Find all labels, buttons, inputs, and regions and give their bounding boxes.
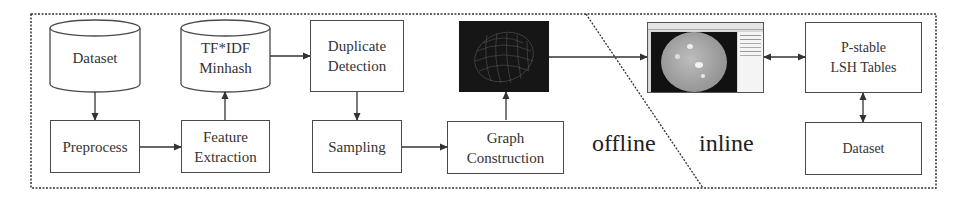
tfidf-label-line1: TF*IDF bbox=[201, 38, 250, 58]
dataset-source-node: Dataset bbox=[50, 38, 140, 78]
offline-section-label: offline bbox=[592, 130, 656, 157]
duplicate-detection-node: Duplicate Detection bbox=[310, 20, 404, 92]
sampling-label: Sampling bbox=[328, 137, 386, 157]
dataset-source-label: Dataset bbox=[73, 48, 118, 68]
graph-construction-node: Graph Construction bbox=[447, 121, 564, 174]
dataset-inline-label: Dataset bbox=[843, 139, 885, 159]
pstable-label-line2: LSH Tables bbox=[830, 58, 896, 78]
graph-construction-label-line2: Construction bbox=[467, 148, 545, 168]
duplicate-detection-label-line1: Duplicate bbox=[328, 36, 386, 56]
app-titlebar bbox=[648, 23, 764, 30]
feature-extraction-label-line2: Extraction bbox=[194, 147, 256, 167]
preprocess-label: Preprocess bbox=[63, 137, 128, 157]
pstable-label-line1: P-stable bbox=[841, 38, 886, 58]
tfidf-minhash-node: TF*IDF Minhash bbox=[181, 36, 270, 80]
app-side-panel bbox=[738, 32, 763, 92]
feature-extraction-label-line1: Feature bbox=[203, 127, 248, 147]
graph-visualization-image bbox=[459, 21, 549, 92]
sampling-node: Sampling bbox=[312, 120, 402, 173]
app-circular-image bbox=[661, 32, 727, 92]
duplicate-detection-label-line2: Detection bbox=[328, 56, 386, 76]
inline-section-label: inline bbox=[699, 130, 754, 157]
application-screenshot-image bbox=[647, 22, 764, 93]
preprocess-node: Preprocess bbox=[50, 120, 140, 173]
dataset-inline-node: Dataset bbox=[805, 122, 922, 175]
graph-mesh-icon bbox=[459, 21, 549, 92]
pstable-lsh-tables-node: P-stable LSH Tables bbox=[805, 22, 922, 93]
feature-extraction-node: Feature Extraction bbox=[181, 120, 270, 173]
graph-construction-label-line1: Graph bbox=[487, 128, 525, 148]
app-image-viewport bbox=[651, 32, 737, 92]
tfidf-label-line2: Minhash bbox=[199, 58, 252, 78]
